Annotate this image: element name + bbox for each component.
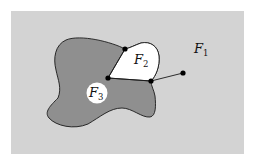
vertex-top [122,46,127,51]
vertex-right [148,78,153,83]
vertex-left [105,75,110,80]
vertex-external [180,70,185,75]
planar-graph-diagram: F1 F2 F3 [0,0,253,161]
